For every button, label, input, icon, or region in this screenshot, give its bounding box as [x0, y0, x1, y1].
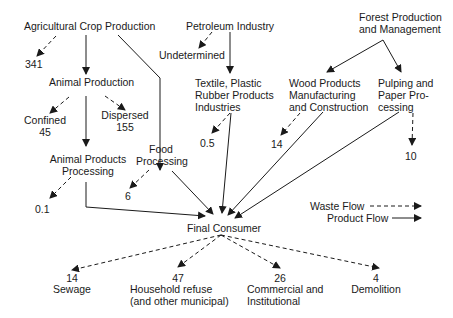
value-confined: 45	[22, 126, 68, 138]
node-undetermined: Undetermined	[159, 49, 225, 61]
source-forest-production: Forest Production and Management	[359, 11, 442, 35]
node-dispersed: Dispersed	[100, 109, 150, 121]
output-commercial-label: Commercial and Institutional	[247, 283, 323, 307]
legend-product-flow: Product Flow	[327, 212, 388, 224]
value-animal-products-waste: 0.1	[35, 203, 50, 215]
value-wood-waste: 14	[271, 138, 283, 150]
legend-waste-flow: Waste Flow	[310, 200, 364, 212]
node-confined: Confined	[22, 114, 68, 126]
output-demolition-label: Demolition	[346, 283, 406, 295]
value-food-waste: 6	[125, 190, 131, 202]
output-sewage-label: Sewage	[52, 283, 92, 295]
source-agricultural-crop-production: Agricultural Crop Production	[24, 20, 155, 32]
node-animal-production: Animal Production	[49, 76, 134, 88]
output-household-label: Household refuse (and other municipal)	[130, 283, 229, 307]
value-agri-waste: 341	[25, 58, 43, 70]
value-dispersed: 155	[100, 121, 150, 133]
node-animal-products-processing: Animal Products Processing	[45, 153, 131, 177]
waste-flow-diagram: Agricultural Crop Production Petroleum I…	[0, 0, 453, 318]
value-textile-waste: 0.5	[200, 137, 215, 149]
source-petroleum-industry: Petroleum Industry	[186, 20, 274, 32]
node-pulping-paper: Pulping and Paper Pro- cessing	[378, 77, 433, 113]
node-food-processing: Food Processing	[136, 143, 186, 167]
node-wood-products: Wood Products Manufacturing and Construc…	[289, 77, 368, 113]
value-pulp-waste: 10	[405, 150, 417, 162]
node-final-consumer: Final Consumer	[187, 222, 261, 234]
node-textile-plastic-rubber: Textile, Plastic Rubber Products Industr…	[195, 77, 274, 113]
